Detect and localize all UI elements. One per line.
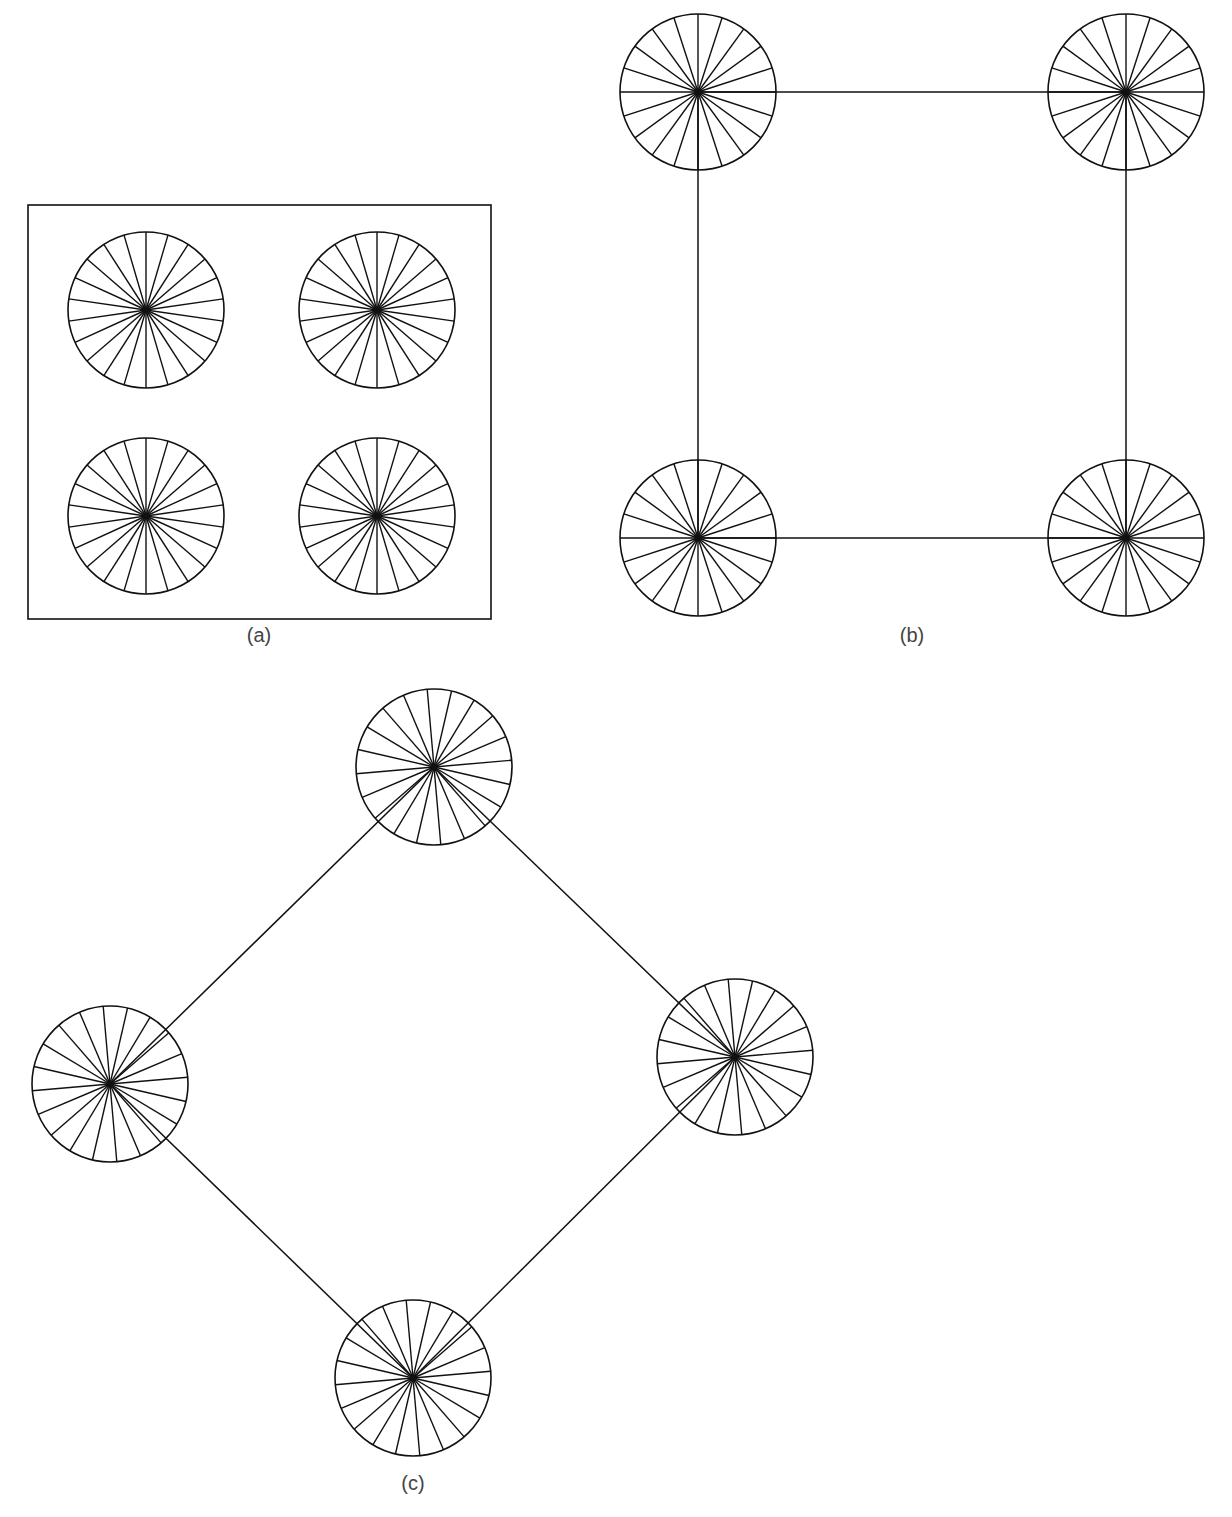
wheel-spoke	[341, 1378, 413, 1408]
wheel-spoke	[80, 1012, 110, 1084]
wheel-spoke	[698, 514, 772, 538]
wheel-spoke	[103, 1006, 110, 1084]
wheel-spoke	[124, 235, 146, 310]
wheel-spoke	[413, 1378, 464, 1437]
wheel-spoke	[1126, 538, 1200, 562]
wheel-spoke	[59, 1025, 110, 1084]
wheel-spoke	[1063, 492, 1126, 538]
wheel-spoke	[1063, 92, 1126, 138]
wheel-spoke	[698, 92, 744, 155]
wheel-spoke	[698, 18, 722, 92]
wheel-hub	[431, 764, 438, 771]
wheel-spoke	[124, 310, 146, 385]
wheel-spoke	[1052, 68, 1126, 92]
wheel-spoke	[367, 727, 434, 767]
spoked-wheel	[1048, 14, 1204, 170]
wheel-spoke	[674, 464, 698, 538]
wheel-spoke	[377, 516, 399, 591]
wheel-spoke	[92, 1084, 110, 1160]
wheel-spoke	[413, 1302, 431, 1378]
spoked-wheel	[68, 232, 224, 388]
wheel-spoke	[1126, 46, 1189, 92]
wheel-spoke	[1080, 92, 1126, 155]
wheel-spoke	[146, 441, 168, 516]
wheel-spoke	[1126, 92, 1200, 116]
wheel-spoke	[676, 1057, 735, 1108]
wheel-spoke	[1080, 475, 1126, 538]
wheel-spoke	[698, 475, 744, 538]
wheel-spoke	[383, 1306, 413, 1378]
wheel-spoke	[110, 1054, 182, 1084]
wheel-spoke	[698, 46, 761, 92]
wheel-spoke	[657, 1057, 735, 1064]
wheel-spoke	[1126, 538, 1189, 584]
wheel-spoke	[1126, 92, 1172, 155]
wheel-spoke	[434, 767, 501, 807]
spoked-wheel	[620, 460, 776, 616]
wheel-spoke	[406, 1300, 413, 1378]
connector-line	[434, 767, 735, 1057]
wheel-spoke	[124, 441, 146, 516]
connector-line	[413, 1057, 735, 1378]
wheel-hub	[695, 89, 702, 96]
wheel-spoke	[698, 538, 772, 562]
wheel-spoke	[735, 1057, 765, 1129]
wheel-spoke	[635, 538, 698, 584]
wheel-spoke	[1052, 538, 1126, 562]
wheel-spoke	[110, 1084, 117, 1162]
spoked-wheel	[1048, 460, 1204, 616]
wheel-hub	[410, 1375, 417, 1382]
wheel-spoke	[624, 514, 698, 538]
spoked-wheel	[356, 689, 512, 845]
wheel-spoke	[1126, 475, 1172, 538]
wheel-spoke	[1126, 538, 1172, 601]
wheel-spoke	[1126, 18, 1150, 92]
wheel-spoke	[1126, 538, 1150, 612]
wheel-spoke	[717, 1057, 735, 1133]
wheel-spoke	[404, 695, 434, 767]
wheel-spoke	[355, 516, 377, 591]
wheel-hub	[1123, 89, 1130, 96]
wheel-spoke	[146, 235, 168, 310]
wheel-spoke	[355, 235, 377, 310]
wheel-spoke	[110, 1077, 188, 1084]
wheel-spoke	[337, 1360, 413, 1378]
wheel-spoke	[146, 516, 168, 591]
wheel-spoke	[735, 1057, 786, 1116]
wheel-spoke	[413, 1371, 491, 1378]
wheel-spoke	[362, 767, 434, 797]
panel-c	[32, 689, 813, 1456]
wheel-spoke	[355, 310, 377, 385]
wheel-hub	[1123, 535, 1130, 542]
wheel-spoke	[1080, 29, 1126, 92]
wheel-spoke	[659, 1039, 735, 1057]
wheel-spoke	[1063, 538, 1126, 584]
wheel-spoke	[1126, 29, 1172, 92]
wheel-spoke	[674, 538, 698, 612]
spoked-wheel	[657, 979, 813, 1135]
wheel-spoke	[335, 1378, 413, 1385]
wheel-spoke	[698, 29, 744, 92]
wheel-spoke	[38, 1084, 110, 1114]
wheel-spoke	[735, 1057, 742, 1135]
wheel-spoke	[110, 1084, 161, 1143]
wheel-spoke	[346, 1338, 413, 1378]
wheel-spoke	[416, 767, 434, 843]
wheel-spoke	[652, 92, 698, 155]
wheel-spoke	[354, 1378, 413, 1429]
wheel-spoke	[663, 1057, 735, 1087]
wheel-spoke	[34, 1066, 110, 1084]
wheel-spoke	[413, 1327, 472, 1378]
wheel-spoke	[1102, 92, 1126, 166]
wheel-spoke	[355, 441, 377, 516]
wheel-spoke	[413, 1378, 420, 1456]
wheel-spoke	[70, 1084, 110, 1151]
wheel-spoke	[110, 1008, 128, 1084]
wheel-spoke	[377, 441, 399, 516]
wheel-spoke	[735, 990, 775, 1057]
panel-a	[28, 205, 491, 619]
panel-b-caption: (b)	[900, 624, 924, 647]
spoked-wheel	[68, 438, 224, 594]
wheel-hub	[143, 513, 150, 520]
wheel-spoke	[735, 1027, 807, 1057]
